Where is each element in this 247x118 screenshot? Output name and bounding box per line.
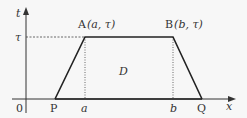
x-axis-label: x [226, 100, 233, 113]
point-p-label: P [50, 102, 58, 115]
y-axis-arrow-icon [23, 7, 29, 15]
region-d-label: D [118, 65, 128, 78]
point-q-label: Q [197, 102, 206, 115]
origin-label: 0 [16, 102, 23, 115]
tau-label: τ [15, 31, 22, 44]
trapezoid-boundary [55, 37, 202, 99]
tick-b-label: b [170, 102, 177, 115]
point-a-coords: (a, τ) [87, 18, 115, 31]
point-b-name: B [165, 18, 173, 31]
y-axis-label: t [16, 7, 21, 20]
point-b-coords: (b, τ) [174, 18, 203, 31]
point-b-label: B(b, τ) [165, 18, 203, 31]
trapezoid-diagram: t τ 0 x P a b Q A(a, τ) B(b, τ) D [0, 0, 247, 118]
point-a-name: A [77, 18, 87, 31]
tick-a-label: a [81, 102, 88, 115]
point-a-label: A(a, τ) [77, 18, 115, 31]
